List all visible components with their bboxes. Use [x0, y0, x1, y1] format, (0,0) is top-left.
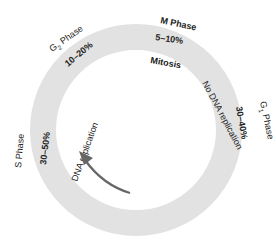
cell-cycle-diagram: M Phase 5–10% Mitosis G2 Phase 10–20% G1… [0, 0, 276, 248]
phase-g1: G1 Phase 30–40% No DNA replication [200, 79, 276, 151]
arrow-shaft [85, 160, 130, 193]
phase-g1-name: G1 Phase [256, 100, 276, 140]
cycle-direction-arrow [79, 151, 130, 193]
phase-s-name: S Phase [13, 133, 26, 168]
